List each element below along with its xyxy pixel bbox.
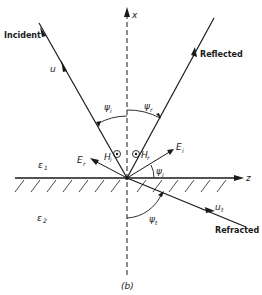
interface-hatching — [15, 180, 226, 192]
angle-transmitted: ψ t — [127, 191, 164, 226]
medium-1-label: ε 1 — [38, 160, 48, 171]
svg-text:r: r — [147, 154, 150, 161]
incident-vector-label: u — [50, 64, 56, 74]
incident-label: Incident — [4, 31, 41, 40]
origin-point — [125, 176, 129, 180]
svg-text:ε: ε — [38, 160, 43, 170]
refracted-arrow-icon — [205, 207, 215, 213]
svg-text:2: 2 — [43, 217, 47, 224]
svg-text:t: t — [155, 219, 158, 226]
angle-incident: ψ i — [96, 102, 127, 127]
svg-text:r: r — [150, 106, 153, 113]
incident-arrow-icon — [40, 27, 46, 37]
incident-arrow-icon — [61, 60, 67, 72]
x-axis: x — [124, 7, 138, 275]
angle-reflected: ψ r — [127, 101, 161, 119]
z-axis-label: z — [245, 173, 251, 183]
field-H-r: H r — [133, 150, 151, 161]
z-axis-arrow-icon — [234, 175, 244, 181]
svg-text:1: 1 — [44, 164, 48, 171]
reflected-label: Reflected — [200, 50, 243, 59]
field-E-r: E r — [77, 155, 127, 178]
svg-text:i: i — [162, 171, 164, 178]
reflection-refraction-diagram: x z ε 1 ε 2 Incident u — [0, 0, 262, 295]
svg-text:i: i — [110, 107, 112, 114]
x-axis-arrow-icon — [124, 7, 130, 17]
svg-text:i: i — [110, 156, 112, 163]
medium-2-label: ε 2 — [37, 213, 47, 224]
svg-text:ε: ε — [37, 213, 42, 223]
svg-text:r: r — [83, 160, 86, 167]
x-axis-label: x — [131, 10, 138, 20]
refracted-ray: u t Refracted — [127, 178, 259, 235]
refracted-vector-sub: t — [221, 206, 224, 213]
figure-caption: (b) — [121, 281, 134, 291]
svg-text:i: i — [182, 147, 184, 154]
angle-field: ψ i — [151, 165, 164, 178]
refracted-label: Refracted — [215, 226, 259, 235]
